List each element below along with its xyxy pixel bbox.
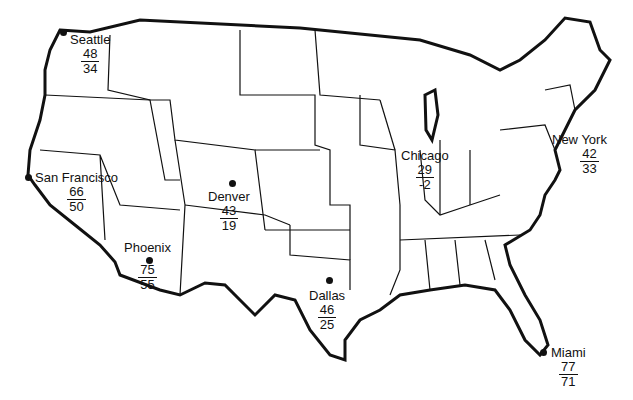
phoenix-marker bbox=[146, 257, 153, 264]
city-name: Denver bbox=[208, 189, 250, 204]
denver-marker bbox=[229, 180, 236, 187]
high-temp: 46 bbox=[318, 303, 336, 318]
city-name: Phoenix bbox=[124, 240, 171, 255]
city-name: New York bbox=[552, 132, 607, 147]
state-lines bbox=[40, 30, 575, 295]
city-name: Miami bbox=[551, 345, 586, 360]
seattle-marker bbox=[60, 29, 67, 36]
city-new-york: New York 4233 bbox=[552, 132, 607, 177]
dallas-marker bbox=[326, 277, 333, 284]
city-denver: Denver 4319 bbox=[208, 189, 250, 234]
city-dallas: Dallas 4625 bbox=[309, 288, 345, 333]
high-temp: 75 bbox=[138, 263, 156, 278]
low-temp: 19 bbox=[220, 219, 238, 233]
low-temp: 50 bbox=[67, 200, 85, 214]
low-temp: -2 bbox=[416, 178, 434, 192]
city-san-francisco: San Francisco 6650 bbox=[35, 170, 118, 215]
high-temp: 77 bbox=[559, 360, 577, 375]
city-phoenix: Phoenix 7555 bbox=[124, 240, 171, 293]
low-temp: 25 bbox=[318, 318, 336, 332]
high-temp: 66 bbox=[67, 185, 85, 200]
san-francisco-marker bbox=[25, 174, 32, 181]
city-name: Chicago bbox=[401, 148, 449, 163]
low-temp: 34 bbox=[81, 62, 99, 76]
city-name: Seattle bbox=[70, 32, 110, 47]
city-miami: Miami 7771 bbox=[551, 345, 586, 390]
city-seattle: Seattle 4834 bbox=[70, 32, 110, 77]
high-temp: 48 bbox=[81, 47, 99, 62]
low-temp: 71 bbox=[559, 375, 577, 389]
city-name: Dallas bbox=[309, 288, 345, 303]
high-temp: 42 bbox=[580, 147, 598, 162]
miami-marker bbox=[540, 349, 547, 356]
low-temp: 55 bbox=[138, 278, 156, 292]
city-chicago: Chicago 29-2 bbox=[401, 148, 449, 193]
low-temp: 33 bbox=[580, 162, 598, 176]
high-temp: 43 bbox=[220, 204, 238, 219]
high-temp: 29 bbox=[416, 163, 434, 178]
city-name: San Francisco bbox=[35, 170, 118, 185]
